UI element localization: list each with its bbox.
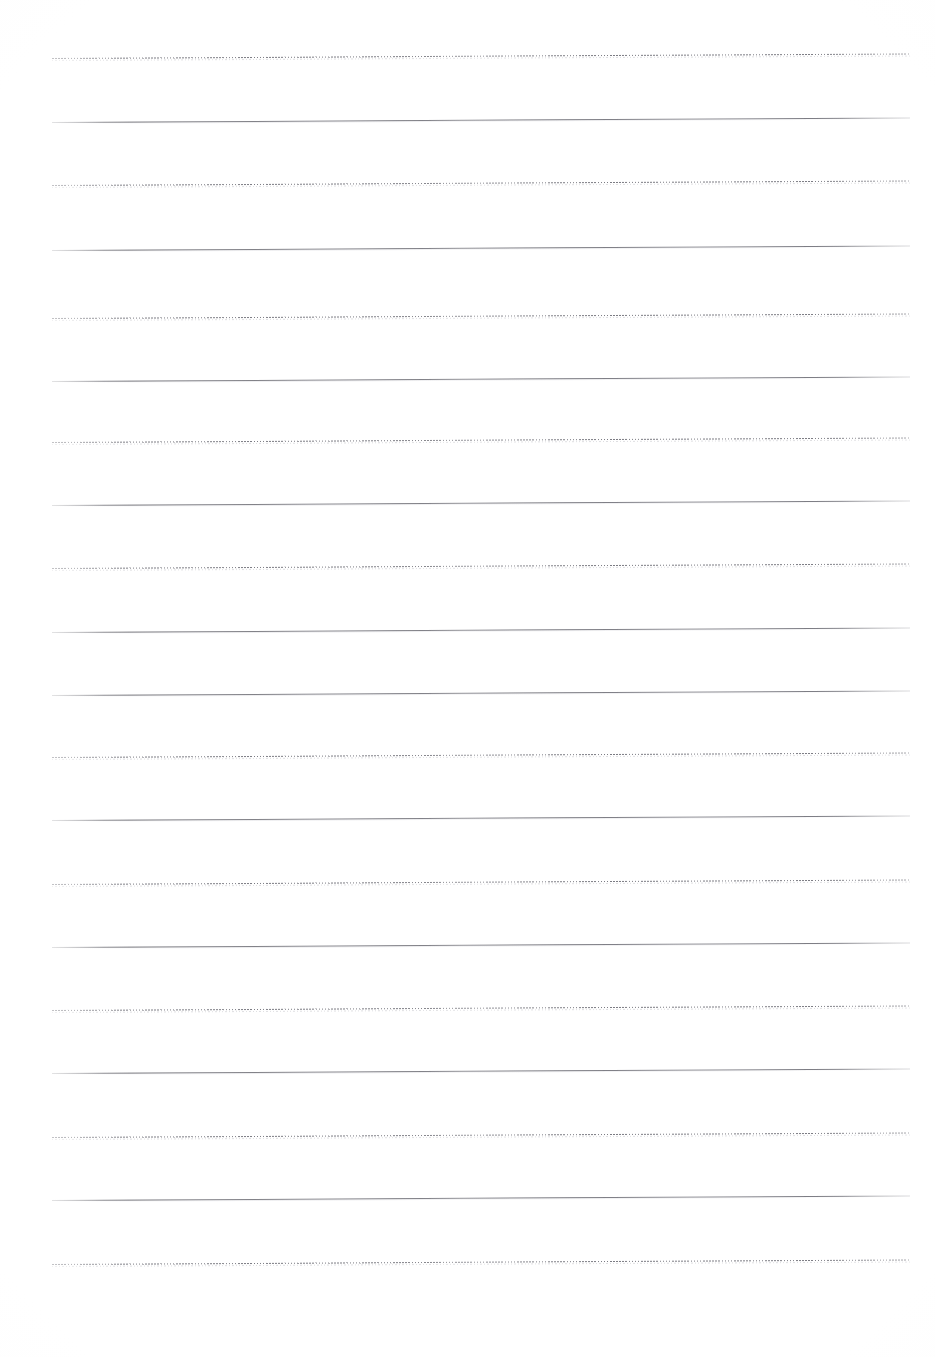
- ruling-line-dotted: [52, 1006, 910, 1010]
- ruling-line-solid: [52, 1196, 910, 1200]
- ruling-line-solid: [52, 943, 910, 947]
- ruling-line-solid: [52, 377, 910, 381]
- ruling-line-solid: [52, 118, 910, 122]
- ruling-line-dotted: [52, 753, 910, 757]
- ruling-line-solid: [52, 628, 910, 632]
- ruling-line-solid: [52, 816, 910, 820]
- ruling-lines-layer: [0, 0, 935, 1357]
- ruling-line-dotted: [52, 181, 910, 185]
- scanned-page: [0, 0, 935, 1357]
- ruling-line-solid: [52, 691, 910, 695]
- ruling-line-dotted: [52, 54, 910, 58]
- ruling-line-dotted: [52, 880, 910, 884]
- ruling-line-solid: [52, 501, 910, 505]
- ruling-line-dotted: [52, 564, 910, 568]
- ruling-line-dotted: [52, 1133, 910, 1137]
- ruling-line-dotted: [52, 1260, 910, 1264]
- ruling-line-dotted: [52, 314, 910, 318]
- ruling-line-solid: [52, 246, 910, 250]
- ruling-line-solid: [52, 1069, 910, 1073]
- ruling-line-dotted: [52, 438, 910, 442]
